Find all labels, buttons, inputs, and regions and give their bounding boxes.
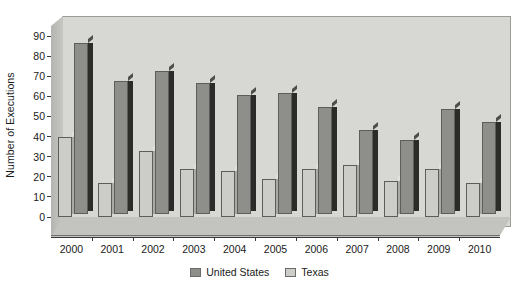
bar-face: [114, 81, 128, 214]
x-axis-tick-mark: [296, 237, 297, 241]
x-axis-tick-label: 2004: [215, 243, 255, 255]
bar-united-states[interactable]: [318, 107, 332, 214]
bar-face: [221, 171, 235, 217]
y-axis-tick: 50: [33, 110, 51, 122]
bar-face: [441, 109, 455, 214]
y-axis-title-text: Number of Executions: [4, 72, 16, 177]
x-axis-tick-mark: [255, 237, 256, 241]
bar-side: [496, 122, 501, 212]
bar-group: [51, 36, 92, 217]
x-axis-tick-label: 2005: [256, 243, 296, 255]
bar-face: [400, 140, 414, 214]
bar-face: [278, 93, 292, 214]
y-axis-tick: 40: [33, 131, 51, 143]
x-axis-tick-label: 2002: [133, 243, 173, 255]
bar-face: [466, 183, 480, 217]
legend-label: United States: [206, 266, 269, 278]
y-axis-tick: 90: [33, 30, 51, 42]
bar-united-states[interactable]: [155, 71, 169, 214]
bar-top: [496, 114, 501, 122]
bar-group: [133, 36, 174, 217]
y-axis-tick-label: 50: [33, 110, 45, 122]
bar-group: [255, 36, 296, 217]
bar-face: [482, 122, 496, 215]
bar-texas[interactable]: [139, 151, 153, 217]
bar-face: [318, 107, 332, 214]
x-axis-tick-mark: [173, 237, 174, 241]
bar-united-states[interactable]: [237, 95, 251, 214]
bar-texas[interactable]: [98, 183, 112, 217]
bar-face: [302, 169, 316, 217]
x-axis-tick-mark: [459, 237, 460, 241]
bar-group: [92, 36, 133, 217]
bar-texas[interactable]: [302, 169, 316, 217]
bar-group: [214, 36, 255, 217]
bar-united-states[interactable]: [400, 140, 414, 214]
bar-face: [58, 137, 72, 217]
bar-face: [237, 95, 251, 214]
y-axis-tick: 10: [33, 191, 51, 203]
bar-group: [459, 36, 500, 217]
x-axis-tick-label: 2009: [419, 243, 459, 255]
bar-texas[interactable]: [180, 169, 194, 217]
y-axis-tick-label: 80: [33, 50, 45, 62]
bar-united-states[interactable]: [278, 93, 292, 214]
x-axis-tick-mark: [92, 237, 93, 241]
bar-face: [98, 183, 112, 217]
bar-face: [155, 71, 169, 214]
bar-texas[interactable]: [262, 179, 276, 217]
bar-group: [296, 36, 337, 217]
x-axis-tick-mark: [337, 237, 338, 241]
bar-united-states[interactable]: [441, 109, 455, 214]
y-axis-tick: 60: [33, 90, 51, 102]
x-axis-tick-label: 2000: [51, 243, 91, 255]
plot-area: [51, 16, 511, 237]
y-axis-tick-label: 60: [33, 90, 45, 102]
bar-texas[interactable]: [466, 183, 480, 217]
bar-texas[interactable]: [58, 137, 72, 217]
x-axis-tick-mark: [418, 237, 419, 241]
bar-united-states[interactable]: [114, 81, 128, 214]
y-axis-tick: 80: [33, 50, 51, 62]
bar-face: [74, 43, 88, 214]
bar-group: [378, 36, 419, 217]
bar-texas[interactable]: [384, 181, 398, 217]
x-axis-line: [51, 237, 500, 238]
legend-swatch: [190, 268, 201, 277]
bar-united-states[interactable]: [359, 130, 373, 214]
legend-swatch: [285, 268, 296, 277]
x-axis-tick-mark: [378, 237, 379, 241]
bar-face: [384, 181, 398, 217]
x-axis-tick-mark: [133, 237, 134, 241]
x-axis-tick-label: 2007: [337, 243, 377, 255]
legend-item[interactable]: Texas: [285, 266, 328, 278]
y-axis-tick-label: 40: [33, 131, 45, 143]
bar-united-states[interactable]: [196, 83, 210, 214]
bar-face: [425, 169, 439, 217]
bar-united-states[interactable]: [74, 43, 88, 214]
bars-layer: [51, 16, 511, 237]
chart-legend: United StatesTexas: [0, 264, 519, 280]
x-axis-tick-label: 2010: [460, 243, 500, 255]
x-axis-tick-label: 2001: [92, 243, 132, 255]
bar-texas[interactable]: [221, 171, 235, 217]
x-axis-tick-mark: [214, 237, 215, 241]
bar-face: [359, 130, 373, 214]
y-axis-tick-label: 10: [33, 191, 45, 203]
y-axis-tick-label: 30: [33, 151, 45, 163]
legend-item[interactable]: United States: [190, 266, 269, 278]
bar-texas[interactable]: [343, 165, 357, 217]
bar-face: [262, 179, 276, 217]
y-axis-tick-label: 20: [33, 171, 45, 183]
y-axis-tick: 70: [33, 70, 51, 82]
bar-texas[interactable]: [425, 169, 439, 217]
x-axis-tick-label: 2008: [378, 243, 418, 255]
bar-face: [196, 83, 210, 214]
legend-label: Texas: [301, 266, 328, 278]
y-axis-tick: 0: [39, 211, 51, 223]
y-axis-tick-label: 70: [33, 70, 45, 82]
bar-group: [173, 36, 214, 217]
y-axis-tick: 20: [33, 171, 51, 183]
y-axis: 9080706050403020100: [20, 0, 51, 250]
bar-united-states[interactable]: [482, 122, 496, 215]
